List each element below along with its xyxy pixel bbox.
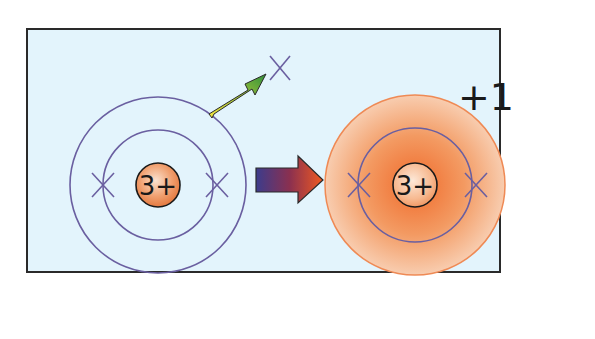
ion: 3+ bbox=[325, 95, 505, 275]
atom-to-ion-diagram: 3+ 3+ +1 bbox=[0, 0, 595, 339]
ion-nucleus-label: 3+ bbox=[396, 171, 434, 201]
nucleus-label: 3+ bbox=[139, 171, 177, 201]
ion-charge-label: +1 bbox=[458, 75, 514, 119]
